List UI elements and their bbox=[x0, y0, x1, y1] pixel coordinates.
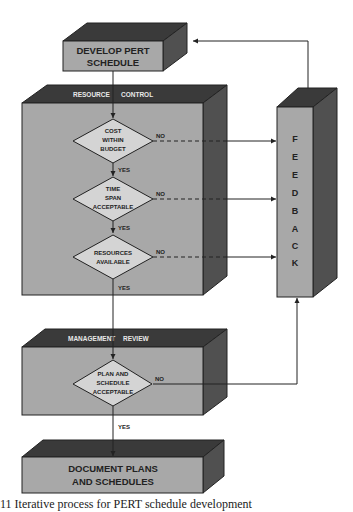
feedback-letter: C bbox=[292, 241, 299, 251]
develop-label-1: DEVELOP PERT bbox=[76, 45, 149, 56]
time-yes-label: YES bbox=[118, 225, 130, 231]
cost-label: COST bbox=[105, 128, 122, 134]
time-label: SPAN bbox=[105, 195, 121, 201]
resources-label: AVAILABLE bbox=[96, 259, 129, 265]
document-plans-box: DOCUMENT PLANS AND SCHEDULES bbox=[22, 440, 224, 493]
feedback-letter: E bbox=[292, 170, 298, 180]
resources-yes-label: YES bbox=[118, 285, 130, 291]
cost-label: WITHIN bbox=[102, 137, 123, 143]
plan-label: ACCEPTABLE bbox=[93, 389, 134, 395]
document-label-2: AND SCHEDULES bbox=[72, 476, 154, 487]
feedback-letter: F bbox=[292, 134, 298, 144]
feedback-box: F E E D B A C K bbox=[277, 88, 337, 297]
review-title: REVIEW bbox=[123, 335, 150, 342]
feedback-letter: K bbox=[292, 258, 299, 268]
feedback-letter: B bbox=[292, 206, 299, 216]
plan-no-label: NO bbox=[155, 376, 164, 382]
cost-no-label: NO bbox=[156, 133, 165, 139]
control-title: CONTROL bbox=[121, 91, 153, 98]
management-title: MANAGEMENT bbox=[68, 335, 115, 342]
time-no-label: NO bbox=[156, 191, 165, 197]
cost-label: BUDGET bbox=[100, 146, 126, 152]
plan-label: PLAN AND bbox=[98, 371, 129, 377]
develop-pert-schedule-box: DEVELOP PERT SCHEDULE bbox=[63, 23, 187, 71]
feedback-letter: A bbox=[292, 224, 299, 234]
document-label-1: DOCUMENT PLANS bbox=[68, 463, 158, 474]
plan-yes-label: YES bbox=[118, 424, 130, 430]
develop-label-2: SCHEDULE bbox=[87, 57, 139, 68]
resources-no-label: NO bbox=[156, 249, 165, 255]
cost-yes-label: YES bbox=[118, 167, 130, 173]
plan-label: SCHEDULE bbox=[96, 380, 129, 386]
time-label: ACCEPTABLE bbox=[93, 204, 134, 210]
resources-label: RESOURCES bbox=[94, 250, 132, 256]
figure-caption: 11 Iterative process for PERT schedule d… bbox=[0, 497, 252, 512]
feedback-letter: D bbox=[292, 188, 299, 198]
time-label: TIME bbox=[106, 186, 120, 192]
resource-title: RESOURCE bbox=[73, 91, 111, 98]
feedback-letter: E bbox=[292, 152, 298, 162]
